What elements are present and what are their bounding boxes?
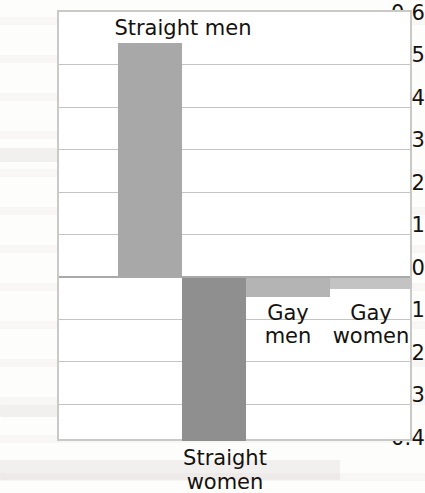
gridline-0.3 [59, 149, 410, 150]
bar-label-straight-women-line2: women [187, 470, 264, 493]
gridline-0.4 [59, 107, 410, 108]
gridline-0.2 [59, 192, 410, 193]
plot-area: Straight men Gay men Gay women [57, 10, 412, 441]
bar-label-gay-men: Gay men [244, 302, 332, 348]
bar-label-gay-women-line2: women [333, 324, 410, 348]
bar-label-straight-women: Straight women [150, 446, 300, 493]
bar-straight-men [118, 43, 182, 276]
bar-label-straight-women-line1: Straight [183, 446, 267, 470]
bar-straight-women [182, 278, 246, 441]
bar-label-gay-men-line1: Gay [267, 301, 309, 325]
bar-label-gay-women: Gay women [325, 302, 417, 348]
bar-chart-figure: 0.6 0.5 0.4 0.3 0.2 0.1 0 −0.1 −0.2 −0.3… [0, 0, 425, 493]
bar-gay-women [330, 278, 412, 289]
bar-label-gay-women-line1: Gay [350, 301, 392, 325]
gridline-0.5 [59, 64, 410, 65]
scan-bleed-block-3 [0, 405, 60, 417]
bar-label-straight-men: Straight men [93, 17, 273, 40]
gridline-0.1 [59, 234, 410, 235]
bar-label-gay-men-line2: men [265, 324, 312, 348]
bar-gay-men [246, 278, 330, 297]
